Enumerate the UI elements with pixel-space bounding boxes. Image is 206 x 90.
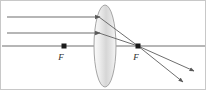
diverging-ray-inner bbox=[138, 46, 183, 82]
focal-point-left-marker bbox=[62, 44, 67, 49]
ray-diagram-canvas: F F bbox=[1, 1, 206, 90]
focal-point-right-label: F bbox=[132, 52, 139, 62]
focal-point-right-marker bbox=[136, 44, 141, 49]
focal-point-left-label: F bbox=[57, 52, 64, 62]
diverging-ray-outer bbox=[138, 46, 194, 71]
ray-diagram-figure: F F bbox=[0, 0, 206, 90]
